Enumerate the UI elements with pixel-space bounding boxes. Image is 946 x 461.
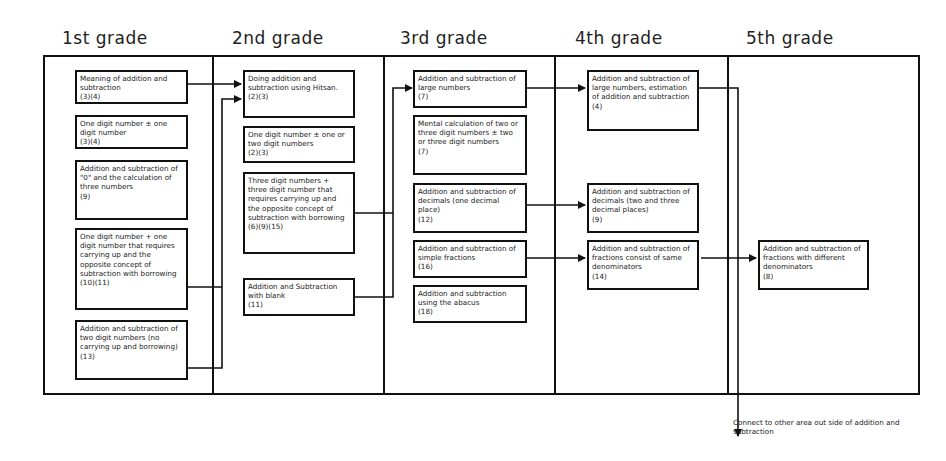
topic-text: Addition and subtraction of decimals (on… [418, 187, 516, 214]
grade1-topic-box: Addition and subtraction of "0" and the … [75, 160, 188, 220]
grade1-topic-box: Meaning of addition and subtraction (3)(… [75, 70, 188, 104]
grade3-topic-box: Addition and subtraction of simple fract… [413, 240, 527, 278]
topic-text: One digit number ± one or two digit numb… [248, 130, 345, 148]
topic-code: (2)(3) [248, 148, 350, 157]
grade3-topic-box: Addition and subtraction of large number… [413, 70, 527, 108]
topic-code: (7) [418, 92, 522, 101]
topic-text: Addition and subtraction of large number… [592, 74, 690, 101]
topic-code: (3)(4) [80, 137, 183, 146]
topic-code: (9) [592, 215, 694, 224]
grade3-topic-box: Addition and subtraction of decimals (on… [413, 183, 527, 233]
topic-text: Addition and subtraction of simple fract… [418, 244, 516, 262]
grade4-topic-box: Addition and subtraction of decimals (tw… [587, 183, 699, 233]
topic-code: (13) [80, 352, 183, 361]
topic-code: (10)(11) [80, 278, 183, 287]
topic-code: (14) [592, 272, 694, 281]
topic-code: (16) [418, 262, 522, 271]
grade2-topic-box: Three digit numbers + three digit number… [243, 172, 355, 254]
topic-code: (12) [418, 215, 522, 224]
topic-code: (9) [80, 192, 183, 201]
topic-code: (7) [418, 147, 522, 156]
grade1-topic-box: Addition and subtraction of two digit nu… [75, 320, 188, 380]
grade2-topic-box: Addition and Subtraction with blank (11) [243, 278, 355, 316]
topic-text: Addition and subtraction of large number… [418, 74, 516, 92]
grade3-topic-box: Addition and subtraction using the abacu… [413, 285, 527, 323]
topic-code: (6)(9)(15) [248, 222, 350, 231]
topic-text: One digit number + one digit number that… [80, 232, 177, 278]
topic-code: (8) [763, 272, 864, 281]
grade4-topic-box: Addition and subtraction of fractions co… [587, 240, 699, 290]
topic-code: (4) [592, 102, 694, 111]
grade5-topic-box: Addition and subtraction of fractions wi… [758, 240, 869, 290]
topic-text: One digit number ± one digit number [80, 119, 167, 137]
topic-code: (11) [248, 300, 350, 309]
topic-text: Addition and subtraction of two digit nu… [80, 324, 178, 351]
topic-text: Addition and subtraction of fractions wi… [763, 244, 861, 271]
footnote-connect-other-area: Connect to other area out side of additi… [733, 418, 903, 437]
topic-code: (2)(3) [248, 92, 350, 101]
grade3-topic-box: Mental calculation of two or three digit… [413, 115, 527, 175]
grade1-topic-box: One digit number ± one digit number (3)(… [75, 115, 188, 149]
topic-text: Meaning of addition and subtraction [80, 74, 167, 92]
topic-code: (18) [418, 307, 522, 316]
topic-text: Three digit numbers + three digit number… [248, 176, 345, 222]
topic-text: Doing addition and subtraction using Hit… [248, 74, 338, 92]
topic-text: Addition and Subtraction with blank [248, 282, 337, 300]
topic-text: Mental calculation of two or three digit… [418, 119, 518, 146]
topic-code: (3)(4) [80, 92, 183, 101]
topic-text: Addition and subtraction of "0" and the … [80, 164, 178, 191]
topic-text: Addition and subtraction of decimals (tw… [592, 187, 690, 214]
topic-text: Addition and subtraction of fractions co… [592, 244, 690, 271]
grade2-topic-box: Doing addition and subtraction using Hit… [243, 70, 355, 118]
grade1-topic-box: One digit number + one digit number that… [75, 228, 188, 310]
topic-text: Addition and subtraction using the abacu… [418, 289, 507, 307]
grade4-topic-box: Addition and subtraction of large number… [587, 70, 699, 131]
grade2-topic-box: One digit number ± one or two digit numb… [243, 126, 355, 163]
